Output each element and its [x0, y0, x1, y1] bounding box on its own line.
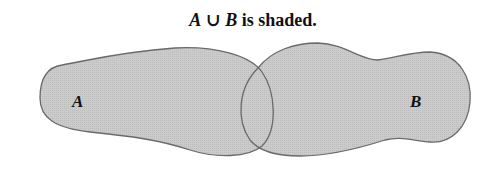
- set-b-label: B: [409, 92, 421, 111]
- set-a-label: A: [71, 92, 83, 111]
- venn-diagram: A B: [0, 0, 490, 174]
- set-b-region: [241, 43, 470, 156]
